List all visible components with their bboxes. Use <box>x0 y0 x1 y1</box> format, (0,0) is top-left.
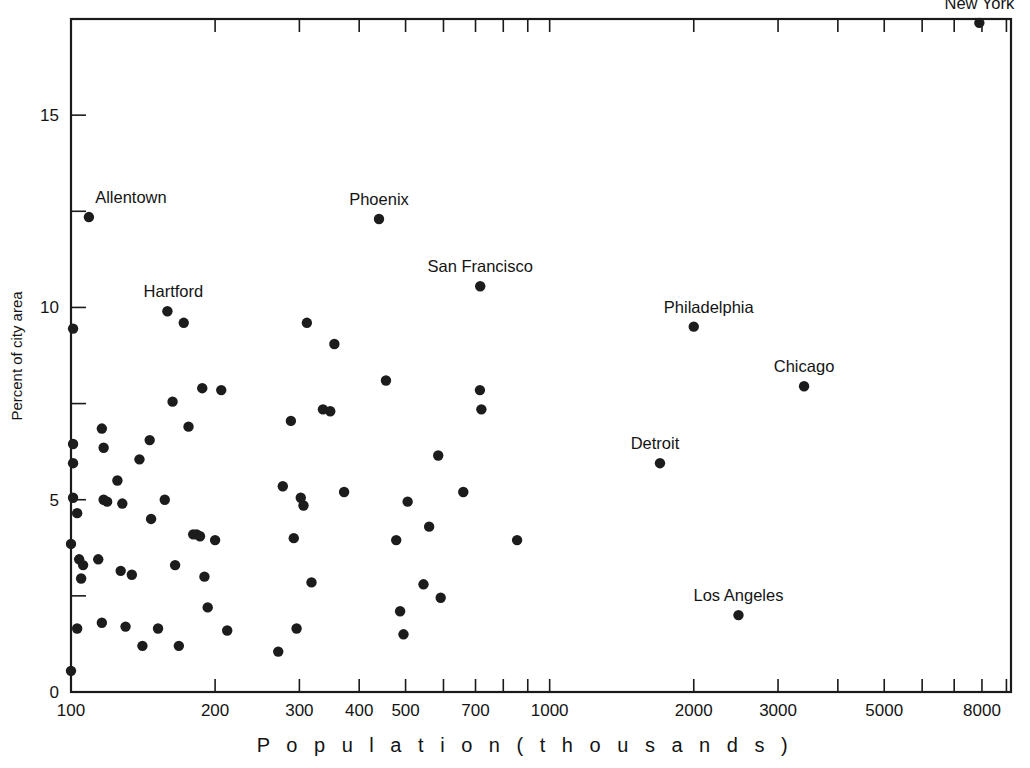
x-axis-label-100: 100 <box>57 701 85 720</box>
data-point <box>325 406 335 416</box>
chart-background <box>0 0 1030 768</box>
data-point <box>72 623 82 633</box>
data-point <box>68 323 78 333</box>
data-point <box>476 404 486 414</box>
data-point <box>433 450 443 460</box>
data-point <box>120 621 130 631</box>
data-point <box>306 577 316 587</box>
data-point <box>167 396 177 406</box>
city-label-chicago: Chicago <box>774 357 835 375</box>
data-point <box>418 579 428 589</box>
data-point <box>395 606 405 616</box>
data-point <box>298 500 308 510</box>
data-point <box>286 416 296 426</box>
data-point <box>93 554 103 564</box>
data-point <box>97 423 107 433</box>
city-label-philadelphia: Philadelphia <box>664 298 755 316</box>
data-point <box>216 385 226 395</box>
x-axis-label-500: 500 <box>391 701 419 720</box>
data-point-detroit <box>655 458 665 468</box>
data-point <box>115 566 125 576</box>
city-label-detroit: Detroit <box>631 434 680 452</box>
x-axis-label-3000: 3000 <box>759 701 797 720</box>
data-point <box>273 646 283 656</box>
data-point <box>127 570 137 580</box>
data-point <box>78 560 88 570</box>
data-point <box>170 560 180 570</box>
data-point <box>68 458 78 468</box>
y-axis-label-15: 15 <box>40 106 59 125</box>
data-point <box>339 487 349 497</box>
data-point <box>183 421 193 431</box>
data-point-allentown <box>84 212 94 222</box>
data-point <box>329 339 339 349</box>
scatter-plot-figure: 10020030040050070010002000300050008000 0… <box>0 0 1030 768</box>
data-point <box>102 496 112 506</box>
data-point <box>195 531 205 541</box>
data-point <box>512 535 522 545</box>
data-point <box>117 498 127 508</box>
city-label-phoenix: Phoenix <box>349 190 409 208</box>
data-point <box>66 666 76 676</box>
city-label-new-york: New York <box>944 0 1014 12</box>
data-point <box>66 539 76 549</box>
data-point <box>98 443 108 453</box>
y-axis-label-5: 5 <box>50 491 59 510</box>
data-point <box>112 475 122 485</box>
x-axis-label-8000: 8000 <box>963 701 1001 720</box>
x-axis-label-1000: 1000 <box>531 701 569 720</box>
data-point <box>137 641 147 651</box>
data-point <box>134 454 144 464</box>
data-point <box>179 318 189 328</box>
data-point <box>278 481 288 491</box>
city-label-allentown: Allentown <box>95 188 167 206</box>
data-point <box>160 495 170 505</box>
x-axis-title: P o p u l a t i o n ( t h o u s a n d s … <box>257 734 793 756</box>
data-point <box>153 623 163 633</box>
data-point-philadelphia <box>689 321 699 331</box>
data-point <box>76 573 86 583</box>
x-axis-label-700: 700 <box>461 701 489 720</box>
y-axis-title: Percent of city area <box>8 291 25 421</box>
data-point <box>199 571 209 581</box>
data-point <box>289 533 299 543</box>
data-point <box>174 641 184 651</box>
x-axis-label-200: 200 <box>201 701 229 720</box>
data-point <box>391 535 401 545</box>
data-point <box>202 602 212 612</box>
data-point <box>291 623 301 633</box>
data-point <box>435 593 445 603</box>
city-label-hartford: Hartford <box>144 282 204 300</box>
x-axis-label-2000: 2000 <box>675 701 713 720</box>
city-label-san-francisco: San Francisco <box>427 257 532 275</box>
data-point-san-francisco <box>475 281 485 291</box>
x-axis-label-400: 400 <box>345 701 373 720</box>
data-point <box>302 318 312 328</box>
data-point-chicago <box>799 381 809 391</box>
y-axis-label-0: 0 <box>50 683 59 702</box>
data-point <box>97 618 107 628</box>
x-axis-label-300: 300 <box>285 701 313 720</box>
data-point-los-angeles <box>733 610 743 620</box>
data-point <box>424 521 434 531</box>
data-point <box>68 493 78 503</box>
data-point-hartford <box>162 306 172 316</box>
data-point <box>398 629 408 639</box>
data-point <box>210 535 220 545</box>
data-point-new-york <box>974 18 984 28</box>
data-point <box>146 514 156 524</box>
data-point <box>197 383 207 393</box>
data-point <box>144 435 154 445</box>
city-label-los-angeles: Los Angeles <box>694 586 784 604</box>
data-point <box>222 625 232 635</box>
data-point <box>458 487 468 497</box>
x-axis-label-5000: 5000 <box>865 701 903 720</box>
data-point <box>381 375 391 385</box>
data-point <box>402 496 412 506</box>
data-point <box>68 439 78 449</box>
data-point-phoenix <box>374 214 384 224</box>
data-point <box>475 385 485 395</box>
population-vs-percent-city-area-chart: 10020030040050070010002000300050008000 0… <box>0 0 1030 768</box>
y-axis-label-10: 10 <box>40 298 59 317</box>
data-point <box>72 508 82 518</box>
